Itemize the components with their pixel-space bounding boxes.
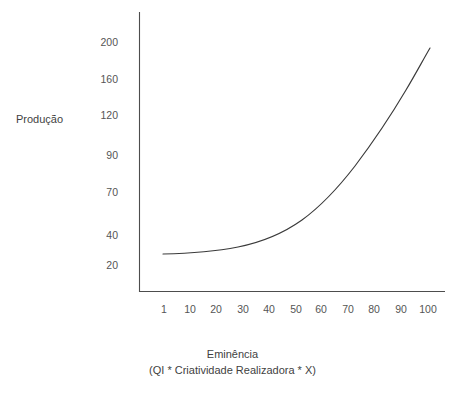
x-axis-title: Eminência [0,348,465,360]
x-tick-label-20: 20 [201,303,231,315]
y-tick-label-40: 40 [84,229,118,241]
y-tick-label-160: 160 [84,73,118,85]
x-axis-subtitle: (QI * Criatividade Realizadora * X) [0,364,465,376]
y-tick-label-90: 90 [84,149,118,161]
chart-figure: Produção 200 160 120 90 70 40 20 1 10 20… [0,0,465,398]
y-tick-label-20: 20 [84,259,118,271]
y-tick-label-70: 70 [84,186,118,198]
plot-area [0,0,465,398]
x-tick-label-60: 60 [306,303,336,315]
x-tick-label-90: 90 [386,303,416,315]
x-tick-label-40: 40 [254,303,284,315]
x-tick-label-100: 100 [413,303,443,315]
y-axis-title: Produção [16,113,63,125]
y-tick-label-200: 200 [84,36,118,48]
production-curve [163,48,430,254]
y-tick-label-120: 120 [84,109,118,121]
x-tick-label-80: 80 [359,303,389,315]
